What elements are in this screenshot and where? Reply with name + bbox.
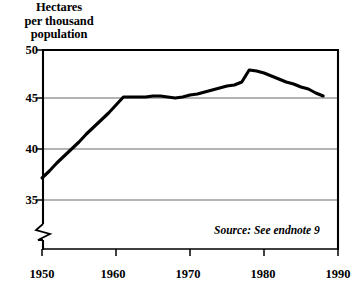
data-series-line [42, 70, 323, 178]
ytick-label-35: 35 [12, 194, 38, 207]
xtick-label-1970: 1970 [166, 268, 210, 281]
xtick-label-1990: 1990 [316, 268, 360, 281]
source-annotation: Source: See endnote 9 [214, 224, 320, 236]
ytick-label-40: 40 [12, 143, 38, 156]
xtick-label-1980: 1980 [241, 268, 285, 281]
ytick-label-50: 50 [12, 44, 38, 57]
axis-break-zigzag [36, 224, 50, 240]
axis-title-line-1: Hectares [0, 1, 118, 15]
chart-axis-title: Hectares per thousand population [0, 1, 118, 42]
ytick-label-45: 45 [12, 92, 38, 105]
plot-frame [36, 50, 339, 250]
axis-title-line-2: per thousand [0, 15, 118, 29]
x-axis-ticks [42, 249, 338, 256]
chart-plot-area [0, 0, 364, 289]
gridlines [42, 98, 339, 200]
xtick-label-1960: 1960 [91, 268, 135, 281]
xtick-label-1950: 1950 [20, 268, 64, 281]
chart-figure: Hectares per thousand population 50 45 4… [0, 0, 364, 289]
axis-title-line-3: population [0, 28, 118, 42]
